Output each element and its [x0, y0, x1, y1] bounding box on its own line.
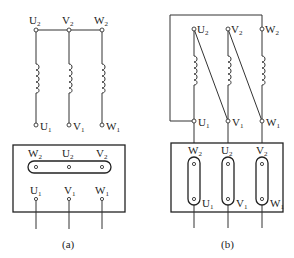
delta-return-line — [170, 15, 262, 121]
box-terminal — [67, 197, 70, 200]
label-w2-b: W2 — [265, 23, 279, 37]
winding-u-b — [194, 29, 197, 121]
terminal-u1-a — [34, 123, 38, 127]
label-w2-a: W2 — [94, 14, 108, 28]
winding-w-a — [102, 30, 105, 125]
box-label-u1-b: U1 — [202, 197, 214, 211]
box-label-w2-a: W2 — [28, 147, 42, 161]
panel-b: U2 V2 W2 U1 V1 W1 — [170, 15, 284, 251]
terminal-u1-b — [192, 119, 196, 123]
winding-diagram: U2 V2 W2 U1 V1 W1 — [0, 0, 294, 258]
box-terminal — [260, 197, 263, 200]
coil-icon — [228, 56, 231, 85]
winding-u-a — [36, 30, 39, 125]
coil-icon — [102, 64, 105, 93]
box-terminal — [100, 197, 103, 200]
label-v2-a: V2 — [62, 14, 74, 28]
terminal-w2-b — [260, 27, 264, 31]
delta-diagonal-u2-v1 — [194, 29, 228, 121]
terminal-w1-b — [260, 119, 264, 123]
box-terminal — [34, 165, 37, 168]
terminal-u2-b — [192, 27, 196, 31]
caption-a: (a) — [62, 238, 75, 251]
coil-icon — [69, 64, 72, 93]
coil-icon — [36, 64, 39, 93]
terminal-v2-a — [67, 28, 71, 32]
box-terminal — [226, 162, 229, 165]
coil-icon — [262, 56, 265, 85]
box-terminal — [260, 162, 263, 165]
label-v1-a: V1 — [73, 120, 85, 134]
label-v2-b: V2 — [231, 23, 243, 37]
winding-v-a — [69, 30, 72, 125]
caption-b: (b) — [221, 238, 234, 251]
label-w1-a: W1 — [106, 120, 120, 134]
box-label-v1-b: V1 — [236, 197, 248, 211]
label-u1-b: U1 — [198, 116, 210, 130]
box-terminal — [34, 197, 37, 200]
box-terminal — [192, 162, 195, 165]
box-label-u2-b: U2 — [221, 144, 233, 158]
label-w1-b: W1 — [266, 116, 280, 130]
label-u2-a: U2 — [29, 14, 41, 28]
box-label-v1-a: V1 — [64, 184, 76, 198]
box-label-v2-a: V2 — [96, 147, 108, 161]
terminal-w1-a — [100, 123, 104, 127]
box-terminal — [226, 197, 229, 200]
terminal-v1-b — [226, 119, 230, 123]
terminal-w2-a — [100, 28, 104, 32]
box-label-u2-a: U2 — [62, 147, 74, 161]
terminal-v1-a — [67, 123, 71, 127]
box-label-u1-a: U1 — [30, 184, 42, 198]
label-v1-b: V1 — [232, 116, 244, 130]
winding-w-b — [262, 29, 265, 121]
terminal-v2-b — [226, 27, 230, 31]
panel-a: U2 V2 W2 U1 V1 W1 — [13, 14, 125, 251]
delta-diagonal-v2-w1 — [228, 29, 262, 121]
box-label-w1-b: W1 — [270, 197, 284, 211]
terminal-u2-a — [34, 28, 38, 32]
winding-v-b — [228, 29, 231, 121]
box-label-w2-b: W2 — [188, 144, 202, 158]
label-u1-a: U1 — [40, 120, 52, 134]
box-label-v2-b: V2 — [256, 144, 268, 158]
box-terminal — [67, 165, 70, 168]
box-terminal — [192, 197, 195, 200]
box-terminal — [100, 165, 103, 168]
box-label-w1-a: W1 — [95, 184, 109, 198]
label-u2-b: U2 — [197, 23, 209, 37]
coil-icon — [194, 56, 197, 85]
